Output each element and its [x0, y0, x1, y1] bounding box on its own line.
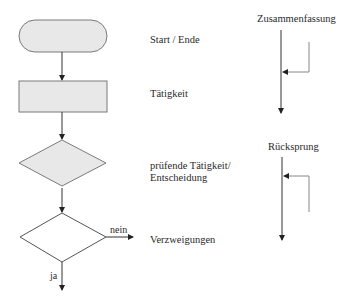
merge-branch-line — [283, 42, 309, 72]
branch-yes-label: ja — [50, 270, 57, 282]
merge-label: Zusammenfassung — [257, 13, 336, 25]
process-symbol — [19, 81, 107, 112]
decision-label-line1: prüfende Tätigkeit/ — [150, 160, 231, 172]
loopback-branch-line — [284, 176, 309, 212]
loopback-label: Rücksprung — [268, 141, 319, 153]
process-label: Tätigkeit — [150, 88, 188, 100]
decision-symbol — [19, 140, 106, 186]
terminal-symbol — [19, 20, 107, 52]
decision-label-line2: Entscheidung — [150, 172, 207, 184]
branch-symbol — [20, 213, 106, 262]
branch-no-label: nein — [110, 224, 127, 236]
terminal-label: Start / Ende — [150, 34, 200, 46]
branch-label: Verzweigungen — [150, 234, 215, 246]
